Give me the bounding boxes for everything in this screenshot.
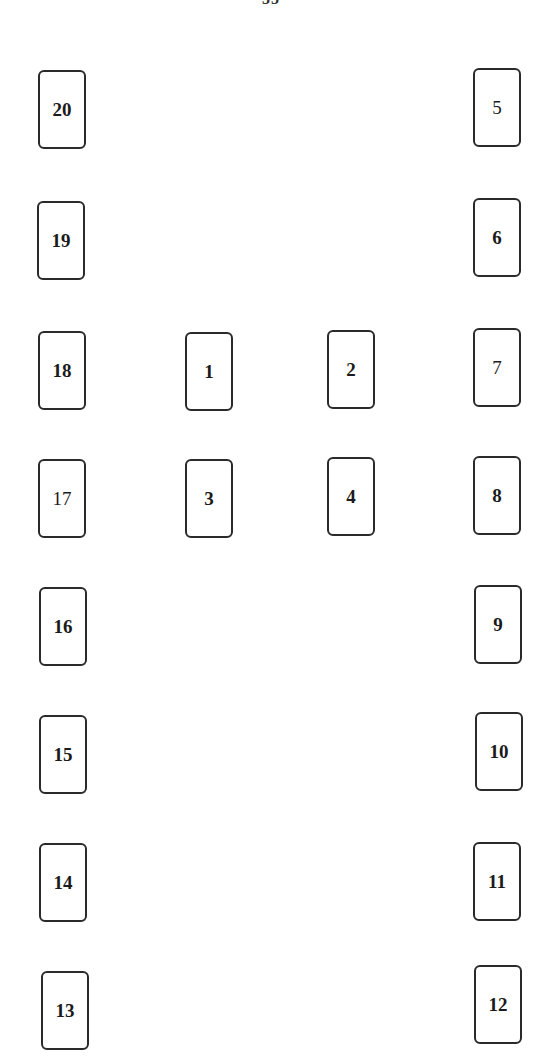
card-label: 1 <box>204 362 214 381</box>
card-label: 10 <box>490 742 509 761</box>
card-label: 12 <box>489 995 508 1014</box>
card-label: 6 <box>492 228 502 247</box>
card-label: 16 <box>54 617 73 636</box>
card-18: 18 <box>38 331 86 410</box>
card-19: 19 <box>37 201 85 280</box>
card-9: 9 <box>474 585 522 664</box>
card-spread-diagram: 55 1 2 3 4 5 6 7 8 9 10 11 12 13 14 15 1 <box>0 0 557 1059</box>
card-3: 3 <box>185 459 233 538</box>
card-12: 12 <box>474 965 522 1044</box>
card-5: 5 <box>473 68 521 147</box>
card-label: 9 <box>493 615 503 634</box>
card-label: 4 <box>346 487 356 506</box>
card-label: 11 <box>488 872 506 891</box>
card-15: 15 <box>39 715 87 794</box>
card-label: 19 <box>52 231 71 250</box>
card-label: 15 <box>54 745 73 764</box>
card-2: 2 <box>327 330 375 409</box>
card-6: 6 <box>473 198 521 277</box>
card-4: 4 <box>327 457 375 536</box>
card-1: 1 <box>185 332 233 411</box>
card-label: 3 <box>204 489 214 508</box>
card-16: 16 <box>39 587 87 666</box>
card-label: 14 <box>54 873 73 892</box>
card-7: 7 <box>473 328 521 407</box>
card-label: 2 <box>346 360 356 379</box>
card-17: 17 <box>38 459 86 538</box>
card-label: 20 <box>53 100 72 119</box>
card-label: 18 <box>53 361 72 380</box>
card-20: 20 <box>38 70 86 149</box>
card-label: 13 <box>56 1001 75 1020</box>
card-label: 17 <box>53 489 72 508</box>
card-label: 7 <box>492 358 502 377</box>
card-label: 5 <box>492 98 502 117</box>
card-13: 13 <box>41 971 89 1050</box>
card-14: 14 <box>39 843 87 922</box>
card-10: 10 <box>475 712 523 791</box>
card-8: 8 <box>473 456 521 535</box>
card-label: 8 <box>492 486 502 505</box>
card-11: 11 <box>473 842 521 921</box>
page-header-fragment: 55 <box>262 0 280 7</box>
